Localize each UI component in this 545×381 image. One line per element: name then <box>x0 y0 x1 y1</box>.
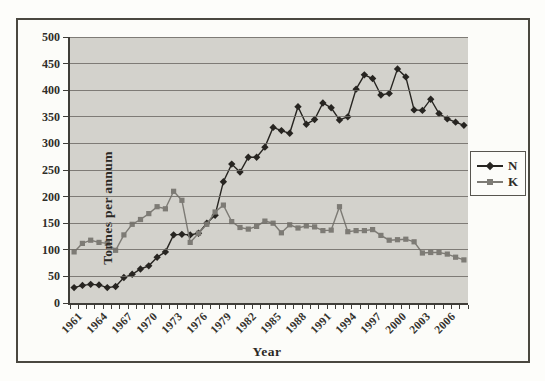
legend-label-k: K <box>508 174 518 190</box>
x-axis-tick <box>360 305 361 309</box>
gridline-250 <box>70 170 468 171</box>
y-axis-title: Tonnes per annum <box>100 108 116 308</box>
k-series-square-marker <box>354 228 359 233</box>
x-axis-tick <box>202 305 203 309</box>
n-series-diamond-marker <box>178 231 185 238</box>
y-tick-label-100: 100 <box>26 244 60 256</box>
y-tick-label-500: 500 <box>26 31 60 43</box>
n-series-diamond-marker <box>137 265 144 272</box>
y-tick-label-450: 450 <box>26 58 60 70</box>
gridline-300 <box>70 143 468 144</box>
legend-item-k: K <box>477 174 520 189</box>
x-axis-tick <box>269 305 270 309</box>
y-tick-label-300: 300 <box>26 137 60 149</box>
k-series-square-marker <box>461 257 466 262</box>
n-series-diamond-marker <box>70 284 77 291</box>
x-axis-tick <box>235 305 236 309</box>
gridline-400 <box>70 90 468 91</box>
chart-plot-area: Tonnes per annum 05010015020025030035040… <box>68 37 468 305</box>
n-series-diamond-marker <box>386 90 393 97</box>
x-axis-tick <box>401 305 402 309</box>
x-axis-tick <box>144 305 145 309</box>
x-axis-tick <box>152 305 153 309</box>
x-axis-tick <box>343 305 344 309</box>
x-axis-tick <box>186 305 187 309</box>
square-marker-icon <box>487 179 493 185</box>
x-axis-tick <box>136 305 137 309</box>
x-axis-tick <box>260 305 261 309</box>
k-series-square-marker <box>221 203 226 208</box>
x-axis-tick <box>434 305 435 309</box>
k-series-square-marker <box>453 255 458 260</box>
y-tick-label-400: 400 <box>26 84 60 96</box>
x-axis-tick <box>169 305 170 309</box>
x-axis-tick <box>351 305 352 309</box>
y-axis-tick <box>63 143 68 144</box>
k-series-square-marker <box>237 225 242 230</box>
x-axis-tick <box>368 305 369 309</box>
k-series-square-marker <box>279 230 284 235</box>
k-series-square-marker <box>295 225 300 230</box>
gridline-350 <box>70 116 468 117</box>
x-axis-tick <box>285 305 286 309</box>
k-series-square-marker <box>362 228 367 233</box>
k-series-square-marker <box>171 189 176 194</box>
x-axis-tick <box>277 305 278 309</box>
k-series-square-marker <box>304 223 309 228</box>
y-axis-tick <box>63 170 68 171</box>
k-series-square-marker <box>254 224 259 229</box>
y-tick-label-50: 50 <box>26 270 60 282</box>
y-tick-label-200: 200 <box>26 191 60 203</box>
gridline-150 <box>70 223 468 224</box>
k-series-square-marker <box>213 209 218 214</box>
n-series-diamond-marker <box>278 127 285 134</box>
k-series-square-marker <box>155 204 160 209</box>
x-axis-tick <box>244 305 245 309</box>
n-series-diamond-marker <box>369 75 376 82</box>
x-axis-tick <box>451 305 452 309</box>
x-axis-tick <box>252 305 253 309</box>
k-series-square-marker <box>436 250 441 255</box>
n-series-diamond-marker <box>361 71 368 78</box>
n-series-diamond-marker <box>245 154 252 161</box>
y-axis-tick <box>63 303 68 304</box>
k-series-square-marker <box>337 204 342 209</box>
k-series-square-marker <box>428 250 433 255</box>
x-axis-tick <box>70 305 71 309</box>
y-tick-label-0: 0 <box>26 297 60 309</box>
x-axis-tick <box>219 305 220 309</box>
n-series-diamond-marker <box>294 103 301 110</box>
x-axis-tick <box>443 305 444 309</box>
k-series-square-marker <box>403 237 408 242</box>
x-axis-tick <box>318 305 319 309</box>
y-axis-tick <box>63 63 68 64</box>
n-series-diamond-marker <box>377 91 384 98</box>
gridline-200 <box>70 196 468 197</box>
x-axis-tick <box>94 305 95 309</box>
y-axis-tick <box>63 196 68 197</box>
k-series-square-marker <box>370 227 375 232</box>
x-axis-tick <box>111 305 112 309</box>
x-axis-tick <box>161 305 162 309</box>
x-axis-tick <box>468 305 469 309</box>
n-series-diamond-marker <box>303 121 310 128</box>
y-axis-tick <box>63 90 68 91</box>
gridline-450 <box>70 63 468 64</box>
y-tick-label-250: 250 <box>26 164 60 176</box>
x-axis-title: Year <box>68 344 466 360</box>
x-axis-tick <box>293 305 294 309</box>
k-series-square-marker <box>138 217 143 222</box>
k-series-square-marker <box>412 239 417 244</box>
n-series-diamond-marker <box>79 282 86 289</box>
k-series-square-marker <box>246 227 251 232</box>
n-series-line <box>74 69 464 288</box>
y-axis-tick <box>63 223 68 224</box>
x-axis-tick <box>128 305 129 309</box>
x-axis-tick <box>177 305 178 309</box>
gridline-100 <box>70 249 468 250</box>
x-axis-tick <box>409 305 410 309</box>
x-axis-tick <box>210 305 211 309</box>
k-series-square-marker <box>312 224 317 229</box>
n-series-diamond-marker <box>170 231 177 238</box>
k-series-square-marker <box>329 228 334 233</box>
